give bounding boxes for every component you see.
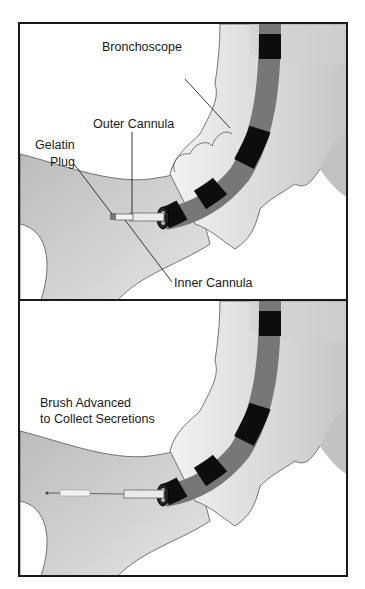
label-gelatin-plug-line1: Gelatin xyxy=(35,138,75,152)
bronchoscopy-figure: Bronchoscope Outer Cannula Gelatin Plug … xyxy=(0,0,365,589)
caption-line1: Brush Advanced xyxy=(40,396,131,410)
caption-line2: to Collect Secretions xyxy=(40,412,155,426)
label-bronchoscope: Bronchoscope xyxy=(102,40,182,54)
label-gelatin-plug-line2: Plug xyxy=(50,155,75,169)
panel-plug-placement: Bronchoscope Outer Cannula Gelatin Plug … xyxy=(18,22,348,301)
label-inner-cannula: Inner Cannula xyxy=(174,276,253,290)
label-outer-cannula: Outer Cannula xyxy=(93,117,174,131)
brush-icon xyxy=(60,490,90,496)
airway-illustration-brush xyxy=(20,301,348,577)
panel-brush-sampling: Brush Advanced to Collect Secretions xyxy=(18,299,348,577)
